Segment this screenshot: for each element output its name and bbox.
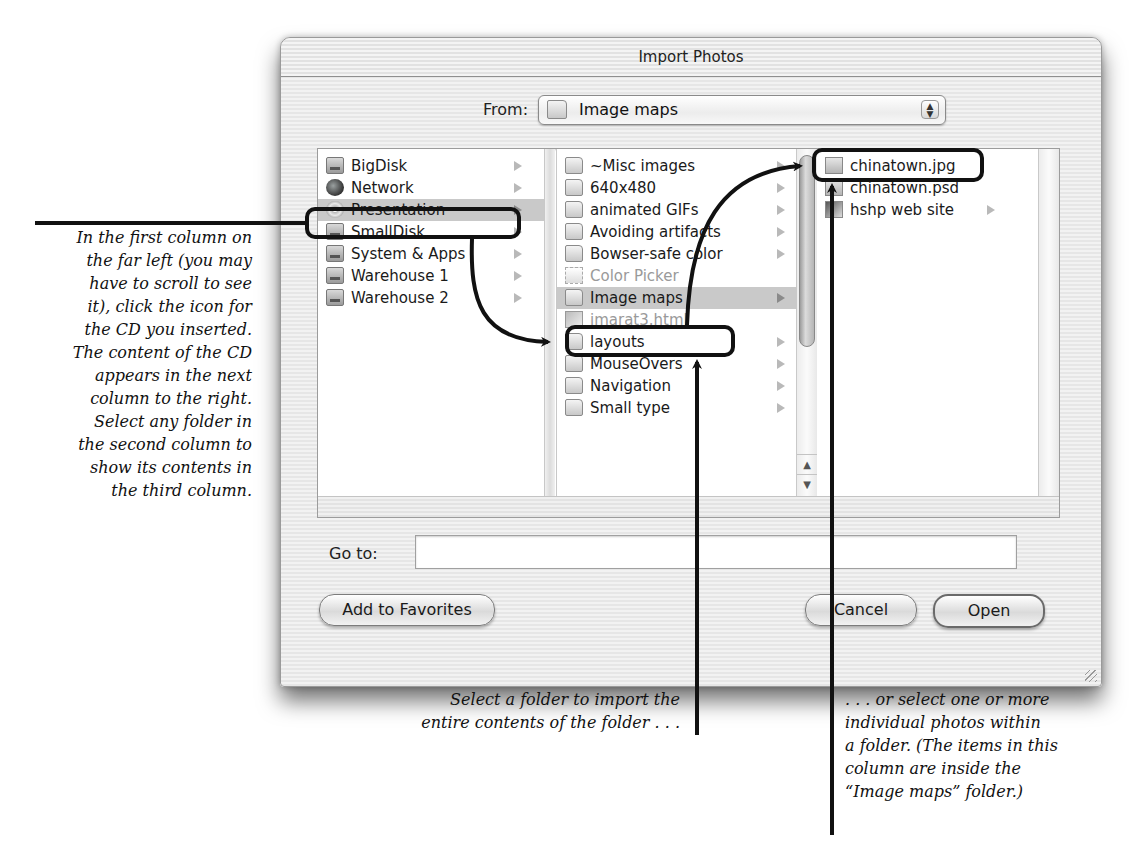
disk-icon	[326, 245, 344, 262]
browser-column-1: BigDisk Network Presentation SmallDisk S	[318, 149, 545, 497]
folder-icon	[565, 201, 583, 218]
globe-icon	[326, 179, 344, 196]
chevron-right-icon	[777, 403, 785, 413]
item-label: Navigation	[590, 375, 671, 397]
list-item-640x480[interactable]: 640x480	[557, 177, 817, 199]
column-divider[interactable]	[545, 149, 555, 497]
folder-icon	[547, 100, 567, 119]
from-popup-menu[interactable]: Image maps ▲▼	[538, 95, 946, 125]
chevron-right-icon	[777, 205, 785, 215]
item-label: Image maps	[590, 287, 683, 309]
column-3-scrollbar[interactable]	[1038, 149, 1059, 497]
item-label: animated GIFs	[590, 199, 699, 221]
column-2-scrollbar[interactable]: ▲ ▼	[796, 149, 817, 497]
item-label: Bowser-safe color	[590, 243, 723, 265]
list-item-bigdisk[interactable]: BigDisk	[318, 155, 544, 177]
chevron-right-icon	[777, 293, 785, 303]
list-item-avoiding-artifacts[interactable]: Avoiding artifacts	[557, 221, 817, 243]
chevron-right-icon	[777, 359, 785, 369]
application-icon	[565, 267, 583, 284]
site-folder-icon	[825, 201, 843, 218]
item-label: System & Apps	[351, 243, 465, 265]
list-item-misc-images[interactable]: ~Misc images	[557, 155, 817, 177]
goto-input[interactable]	[415, 535, 1017, 569]
list-item-hshp-web-site[interactable]: hshp web site	[817, 199, 1059, 221]
list-item-system-apps[interactable]: System & Apps	[318, 243, 544, 265]
scroll-down-arrow-icon[interactable]: ▼	[797, 474, 817, 495]
folder-icon	[565, 289, 583, 306]
list-item-warehouse-1[interactable]: Warehouse 1	[318, 265, 544, 287]
import-photos-dialog: Import Photos From: Image maps ▲▼ BigDis…	[280, 37, 1102, 687]
annotation-right: . . . or select one or moreindividual ph…	[845, 688, 1133, 803]
highlight-chinatown-jpg	[812, 148, 984, 182]
folder-icon	[565, 245, 583, 262]
item-label: Color Picker	[590, 265, 679, 287]
chevron-right-icon	[777, 249, 785, 259]
disk-icon	[326, 267, 344, 284]
cancel-button[interactable]: Cancel	[805, 594, 917, 626]
item-label: Small type	[590, 397, 670, 419]
folder-icon	[565, 179, 583, 196]
chevron-right-icon	[514, 249, 522, 259]
add-to-favorites-button[interactable]: Add to Favorites	[319, 594, 495, 626]
resize-grip-icon[interactable]	[1085, 670, 1097, 682]
from-popup-value: Image maps	[579, 100, 678, 119]
highlight-presentation	[305, 207, 521, 239]
browser-column-2: ~Misc images 640x480 animated GIFs Avoid…	[556, 149, 818, 497]
scroll-up-arrow-icon[interactable]: ▲	[797, 454, 817, 475]
list-item-image-maps[interactable]: Image maps	[557, 287, 817, 309]
folder-icon	[565, 157, 583, 174]
chevron-right-icon	[514, 271, 522, 281]
dialog-title: Import Photos	[281, 38, 1101, 77]
item-label: ~Misc images	[590, 155, 695, 177]
chevron-right-icon	[777, 381, 785, 391]
item-label: hshp web site	[850, 199, 954, 221]
chevron-right-icon	[514, 183, 522, 193]
item-label: BigDisk	[351, 155, 407, 177]
disk-icon	[326, 289, 344, 306]
item-label: Warehouse 1	[351, 265, 449, 287]
chevron-right-icon	[514, 293, 522, 303]
list-item-warehouse-2[interactable]: Warehouse 2	[318, 287, 544, 309]
annotation-middle: Select a folder to import theentire cont…	[340, 688, 680, 734]
list-item-color-picker: Color Picker	[557, 265, 817, 287]
chevron-right-icon	[777, 227, 785, 237]
item-label: Network	[351, 177, 414, 199]
folder-icon	[565, 399, 583, 416]
folder-icon	[565, 223, 583, 240]
open-button[interactable]: Open	[933, 594, 1045, 628]
list-item-animated-gifs[interactable]: animated GIFs	[557, 199, 817, 221]
folder-icon	[565, 355, 583, 372]
from-row: From: Image maps ▲▼	[281, 95, 1101, 125]
chevron-right-icon	[777, 337, 785, 347]
item-label: 640x480	[590, 177, 656, 199]
chevron-right-icon	[514, 161, 522, 171]
horizontal-scrollbar[interactable]	[318, 496, 1059, 517]
chevron-right-icon	[777, 183, 785, 193]
browser-column-3: chinatown.jpg chinatown.psd hshp web sit…	[817, 149, 1059, 497]
from-label: From:	[483, 100, 528, 119]
list-item-network[interactable]: Network	[318, 177, 544, 199]
list-item-small-type[interactable]: Small type	[557, 397, 817, 419]
list-item-bowser-safe-color[interactable]: Bowser-safe color	[557, 243, 817, 265]
item-label: Warehouse 2	[351, 287, 449, 309]
goto-label: Go to:	[329, 544, 378, 563]
annotation-left: In the first column onthe far left (you …	[0, 226, 252, 502]
chevron-right-icon	[777, 161, 785, 171]
scrollbar-thumb[interactable]	[799, 155, 815, 347]
item-label: Avoiding artifacts	[590, 221, 721, 243]
highlight-image-maps	[565, 325, 735, 357]
chevron-right-icon	[987, 205, 995, 215]
disk-icon	[326, 157, 344, 174]
list-item-navigation[interactable]: Navigation	[557, 375, 817, 397]
folder-icon	[565, 377, 583, 394]
updown-arrows-icon: ▲▼	[921, 100, 939, 119]
